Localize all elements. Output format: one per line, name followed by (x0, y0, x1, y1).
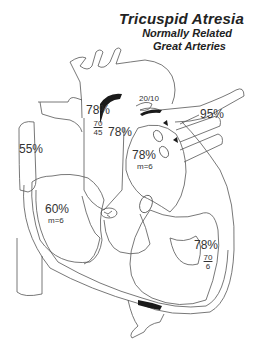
superior-vena-cava (38, 98, 82, 103)
diagram-subtitle-line2: Great Arteries (153, 40, 226, 52)
right-ventricle (104, 214, 150, 254)
ra-saturation-label: 60% (45, 203, 69, 215)
aorta-pressure: 70 45 (90, 119, 106, 137)
aorta-outer (70, 62, 82, 118)
pulmonary-vein-lower (180, 134, 223, 162)
lv-pressure: 70 6 (200, 253, 216, 271)
ra-mean-pressure: m=6 (48, 216, 64, 225)
pa-pressure-label: 20/10 (139, 94, 159, 103)
lpv-shading (163, 120, 168, 126)
svc-saturation-label: 55% (19, 143, 43, 155)
diagram-subtitle-line1: Normally Related (142, 27, 232, 39)
lv-pressure-systolic: 70 (200, 253, 216, 262)
la-saturation-label: 78% (132, 149, 156, 161)
lv-wall-shading (138, 300, 162, 310)
lpv2-shading (173, 137, 178, 143)
inferior-vena-cava (17, 238, 42, 296)
diagram-title: Tricuspid Atresia (119, 10, 244, 27)
la-mean-pressure: m=6 (137, 162, 153, 171)
aorta-saturation-label: 78% (86, 104, 110, 116)
pa-saturation-label: 78% (108, 126, 132, 138)
heart-diagram (0, 0, 256, 363)
lv-saturation-label: 78% (194, 239, 218, 251)
right-atrium (32, 174, 104, 262)
aortic-arch (70, 48, 175, 104)
lv-pressure-diastolic: 6 (200, 262, 216, 271)
pulmonary-vein-saturation-label: 95% (200, 108, 224, 120)
aorta-pressure-systolic: 70 (90, 119, 106, 128)
aorta-pressure-diastolic: 45 (90, 128, 106, 137)
